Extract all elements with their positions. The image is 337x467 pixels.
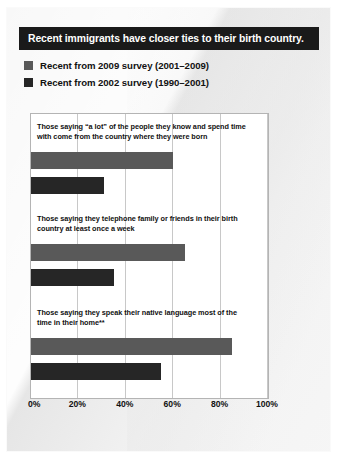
x-axis-label-20pct: 20%	[69, 399, 86, 409]
legend-item-2002: Recent from 2002 survey (1990–2001)	[24, 74, 304, 91]
chart-legend: Recent from 2009 survey (2001–2009) Rece…	[24, 57, 304, 91]
bar-2002-group3	[31, 363, 161, 380]
bar-2009-group3	[31, 338, 232, 355]
gridline-80	[220, 114, 221, 398]
legend-swatch-2002	[24, 78, 33, 87]
bar-2009-group2	[31, 244, 185, 261]
x-axis: 0%20%40%60%80%100%	[30, 399, 267, 413]
bar-2002-group1	[31, 177, 104, 194]
slide-canvas: Recent immigrants have closer ties to th…	[0, 0, 337, 467]
chart-group-label: Those saying “a lot” of the people they …	[37, 122, 252, 142]
chart-title-bar: Recent immigrants have closer ties to th…	[19, 27, 319, 50]
x-axis-label-60pct: 60%	[164, 399, 181, 409]
chart-group-label: Those saying they speak their native lan…	[37, 308, 252, 328]
legend-swatch-2009	[24, 61, 33, 70]
chart-plot-area: Those saying “a lot” of the people they …	[30, 113, 269, 399]
legend-item-2009: Recent from 2009 survey (2001–2009)	[24, 57, 304, 74]
x-axis-label-80pct: 80%	[211, 399, 228, 409]
bar-2009-group1	[31, 152, 173, 169]
gridline-100	[267, 114, 268, 398]
legend-label-2002: Recent from 2002 survey (1990–2001)	[40, 77, 209, 88]
bar-2002-group2	[31, 269, 114, 286]
page-title: Recent immigrants have closer ties to th…	[19, 33, 304, 44]
legend-label-2009: Recent from 2009 survey (2001–2009)	[40, 60, 209, 71]
x-axis-label-0pct: 0%	[28, 399, 40, 409]
x-axis-label-100pct: 100%	[256, 399, 278, 409]
chart-group-label: Those saying they telephone family or fr…	[37, 214, 252, 234]
x-axis-label-40pct: 40%	[116, 399, 133, 409]
